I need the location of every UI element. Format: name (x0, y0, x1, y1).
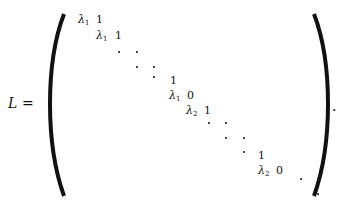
matrix-entry: λ2 (258, 165, 269, 178)
matrix-entry: λ2 (186, 105, 197, 118)
lhs-symbol: L (8, 95, 17, 111)
matrix-entry: 0 (276, 165, 283, 176)
matrix-entry: 1 (258, 150, 265, 161)
matrix-entry: 0 (187, 90, 194, 101)
equals-sign: = (22, 95, 34, 111)
matrix-entry: 1 (96, 14, 103, 25)
matrix-entry: λ1 (96, 30, 107, 43)
matrix-entry: 1 (204, 105, 211, 116)
matrix-brackets (0, 0, 344, 208)
period: . (332, 98, 336, 114)
matrix-entry: λ1 (169, 90, 180, 103)
matrix-entry: 1 (170, 75, 177, 86)
matrix-entry: λ1 (78, 14, 89, 27)
matrix-entry: 1 (115, 30, 122, 41)
